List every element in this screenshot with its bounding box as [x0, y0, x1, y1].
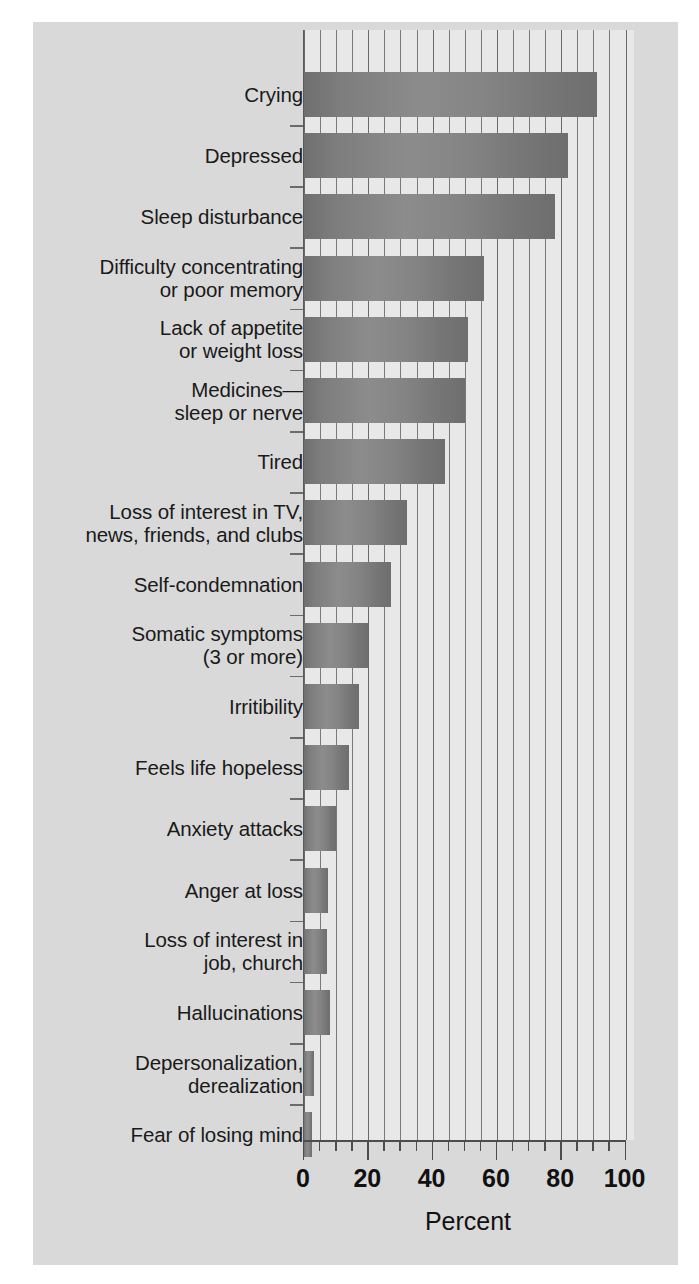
row-separator-tick: [290, 553, 303, 555]
bar[interactable]: [304, 133, 568, 178]
row-separator-tick: [290, 1043, 303, 1045]
category-label: Crying: [35, 83, 303, 106]
x-tick-55: [480, 1140, 481, 1151]
category-label-line: sleep or nerve: [174, 401, 303, 424]
bar-row: [304, 72, 634, 117]
bar[interactable]: [304, 990, 330, 1035]
x-tick-label: 20: [337, 1164, 397, 1193]
bar-row: [304, 806, 634, 851]
category-label-line: Depersonalization,: [135, 1051, 303, 1074]
category-label-column: CryingDepressedSleep disturbanceDifficul…: [33, 22, 303, 1122]
category-label-line: Fear of losing mind: [131, 1123, 303, 1146]
row-separator-tick: [290, 859, 303, 861]
bar-row: [304, 317, 634, 362]
bar[interactable]: [304, 500, 407, 545]
category-label: Medicines—sleep or nerve: [35, 378, 303, 424]
category-label-line: Anger at loss: [185, 879, 303, 902]
category-label-line: or poor memory: [160, 278, 303, 301]
category-label: Anger at loss: [35, 879, 303, 902]
category-label: Irritibility: [35, 695, 303, 718]
x-tick-label: 40: [402, 1164, 462, 1193]
x-tick-70: [528, 1140, 529, 1151]
x-tick-20: [367, 1140, 368, 1160]
x-axis: [303, 1140, 633, 1141]
category-label-line: Difficulty concentrating: [100, 255, 303, 278]
row-separator-tick: [290, 492, 303, 494]
x-tick-5: [319, 1140, 320, 1151]
category-label-line: Self-condemnation: [134, 573, 303, 596]
bar-row: [304, 990, 634, 1035]
bar[interactable]: [304, 684, 359, 729]
x-tick-75: [544, 1140, 545, 1151]
category-label-line: Somatic symptoms: [131, 622, 303, 645]
x-tick-65: [512, 1140, 513, 1151]
bar[interactable]: [304, 256, 484, 301]
x-tick-60: [496, 1140, 497, 1160]
x-tick-100: [625, 1140, 626, 1160]
x-tick-0: [303, 1140, 304, 1160]
category-label-line: job, church: [204, 951, 303, 974]
bar[interactable]: [304, 194, 555, 239]
bar-row: [304, 929, 634, 974]
row-separator-tick: [290, 186, 303, 188]
bar-row: [304, 500, 634, 545]
bar[interactable]: [304, 929, 327, 974]
bar-row: [304, 1051, 634, 1096]
bar-row: [304, 1112, 634, 1157]
x-tick-35: [416, 1140, 417, 1151]
bar[interactable]: [304, 1112, 312, 1157]
row-separator-tick: [290, 125, 303, 127]
category-label-line: Feels life hopeless: [135, 756, 303, 779]
category-label: Hallucinations: [35, 1001, 303, 1024]
x-tick-10: [335, 1140, 336, 1151]
category-label-line: Medicines—: [191, 378, 303, 401]
x-tick-80: [560, 1140, 561, 1160]
bar[interactable]: [304, 868, 328, 913]
x-axis-title: Percent: [303, 1207, 633, 1236]
x-tick-25: [383, 1140, 384, 1151]
bar[interactable]: [304, 623, 368, 668]
bar-row: [304, 684, 634, 729]
category-label: Depressed: [35, 144, 303, 167]
bar-row: [304, 256, 634, 301]
x-tick-45: [448, 1140, 449, 1151]
plot-area: [303, 30, 634, 1140]
category-label-line: Tired: [258, 450, 303, 473]
bar-row: [304, 868, 634, 913]
chart-figure: CryingDepressedSleep disturbanceDifficul…: [33, 22, 678, 1265]
row-separator-tick: [290, 737, 303, 739]
category-label: Tired: [35, 450, 303, 473]
bar[interactable]: [304, 1051, 314, 1096]
row-separator-tick: [290, 921, 303, 923]
x-tick-15: [351, 1140, 352, 1151]
bar[interactable]: [304, 378, 465, 423]
bar-row: [304, 378, 634, 423]
x-tick-label: 80: [530, 1164, 590, 1193]
bar[interactable]: [304, 745, 349, 790]
category-label-line: Anxiety attacks: [167, 817, 303, 840]
bar[interactable]: [304, 439, 445, 484]
category-label-line: Irritibility: [229, 695, 303, 718]
category-label-line: Sleep disturbance: [141, 205, 303, 228]
category-label: Somatic symptoms(3 or more): [35, 622, 303, 668]
row-separator-tick: [290, 431, 303, 433]
x-tick-95: [608, 1140, 609, 1151]
category-label-line: Loss of interest in: [144, 928, 303, 951]
row-separator-tick: [290, 309, 303, 311]
x-tick-40: [432, 1140, 433, 1160]
bar[interactable]: [304, 72, 597, 117]
category-label: Feels life hopeless: [35, 756, 303, 779]
x-tick-85: [576, 1140, 577, 1151]
category-label: Self-condemnation: [35, 573, 303, 596]
row-separator-tick: [290, 615, 303, 617]
bar[interactable]: [304, 806, 336, 851]
bar[interactable]: [304, 317, 468, 362]
category-label-line: Loss of interest in TV,: [109, 500, 303, 523]
bar-row: [304, 623, 634, 668]
category-label-line: Lack of appetite: [160, 316, 303, 339]
category-label-line: derealization: [188, 1074, 303, 1097]
bar-row: [304, 562, 634, 607]
row-separator-tick: [290, 982, 303, 984]
x-tick-label: 60: [466, 1164, 526, 1193]
bar[interactable]: [304, 562, 391, 607]
